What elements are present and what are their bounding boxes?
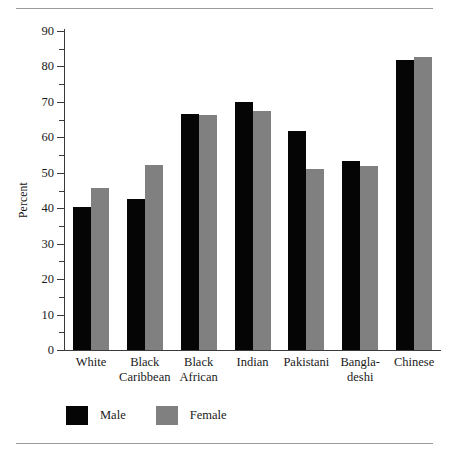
y-tick-label: 80	[2, 60, 54, 73]
y-tick-label: 20	[2, 273, 54, 286]
legend-item-male: Male	[66, 406, 126, 425]
y-tick-major	[57, 173, 64, 174]
x-axis-tick-labels: WhiteBlackCaribbeanBlackAfricanIndianPak…	[64, 355, 441, 395]
bar-female-chinese	[414, 57, 432, 350]
legend-label: Male	[100, 408, 126, 423]
bar-male-bangla-deshi	[342, 161, 360, 350]
x-tick-label: Chinese	[364, 355, 449, 370]
y-tick-major	[57, 66, 64, 67]
bar-female-black-african	[199, 115, 217, 350]
y-tick-major	[57, 137, 64, 138]
y-axis-tick-labels: 0102030405060708090	[0, 0, 54, 456]
bar-female-black-caribbean	[145, 165, 163, 350]
y-tick-label: 90	[2, 25, 54, 38]
bar-male-black-caribbean	[127, 199, 145, 350]
y-tick-label: 70	[2, 96, 54, 109]
legend-swatch-male	[66, 406, 88, 425]
legend-label: Female	[190, 408, 227, 423]
bar-chart-figure: Percent 0102030405060708090 WhiteBlackCa…	[0, 0, 449, 456]
bar-male-black-african	[181, 114, 199, 350]
bar-female-indian	[253, 111, 271, 350]
y-tick-major	[57, 279, 64, 280]
bar-female-bangla-deshi	[360, 166, 378, 350]
y-tick-label: 40	[2, 202, 54, 215]
bar-male-indian	[235, 102, 253, 350]
y-tick-major	[57, 208, 64, 209]
y-tick-major	[57, 350, 64, 351]
legend-swatch-female	[156, 406, 178, 425]
y-tick-major	[57, 102, 64, 103]
y-tick-major	[57, 244, 64, 245]
y-tick-major	[57, 31, 64, 32]
chart-legend: MaleFemale	[66, 404, 256, 426]
legend-item-female: Female	[156, 406, 227, 425]
y-tick-label: 10	[2, 308, 54, 321]
y-tick-major	[57, 315, 64, 316]
bar-male-white	[73, 207, 91, 350]
y-tick-label: 50	[2, 167, 54, 180]
y-tick-label: 30	[2, 237, 54, 250]
bar-male-pakistani	[288, 131, 306, 350]
y-tick-label: 60	[2, 131, 54, 144]
bar-female-white	[91, 188, 109, 350]
bar-male-chinese	[396, 60, 414, 350]
bar-female-pakistani	[306, 169, 324, 350]
